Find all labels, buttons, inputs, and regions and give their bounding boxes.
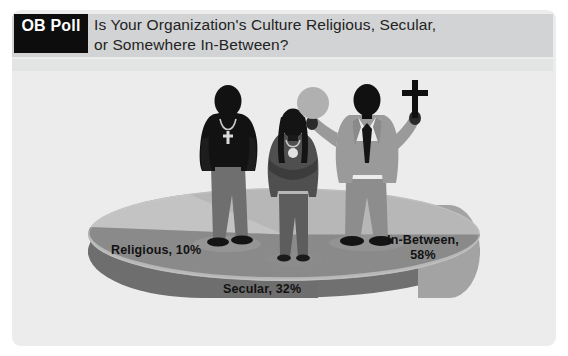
slice-label-inbetween: In-Between, 58% xyxy=(377,233,469,263)
figure-center-pendant xyxy=(288,148,298,158)
figure-left-neck xyxy=(223,113,233,120)
figure-right-shoe-left xyxy=(340,236,364,246)
figure-center-woman-arms-crossed xyxy=(263,109,323,267)
figure-left-man-with-cross-necklace xyxy=(193,85,261,252)
poll-panel: OB Poll Is Your Organization's Culture R… xyxy=(12,10,556,346)
slice-label-religious: Religious, 10% xyxy=(111,243,201,257)
slice-label-inbetween-line-1: In-Between, xyxy=(387,233,459,247)
figures-svg xyxy=(12,71,553,346)
figure-left-trousers xyxy=(211,166,248,241)
ob-poll-badge-label: OB Poll xyxy=(21,17,80,35)
figure-right-trousers xyxy=(345,179,388,240)
figure-left-shoe-right xyxy=(231,236,253,245)
figure-center-neck xyxy=(288,135,298,141)
figure-right-head xyxy=(354,84,381,116)
figure-right-neck xyxy=(362,112,372,119)
page-title-line-1: Is Your Organization's Culture Religious… xyxy=(94,15,524,35)
cross-icon xyxy=(402,80,428,118)
poll-graphic: OB Poll Is Your Organization's Culture R… xyxy=(0,0,568,356)
chart-stage: Religious, 10% Secular, 32% In-Between, … xyxy=(12,71,553,346)
page-title: Is Your Organization's Culture Religious… xyxy=(94,15,524,54)
figure-center-shoe-left xyxy=(277,255,291,262)
figure-left-shoe-left xyxy=(207,238,229,247)
silhouette-figures xyxy=(12,71,553,346)
figure-center-shoe-right xyxy=(296,255,310,262)
globe-icon xyxy=(297,87,329,119)
page-title-line-2: or Somewhere In-Between? xyxy=(94,35,524,55)
figure-center-trousers xyxy=(279,194,308,257)
slice-label-inbetween-line-2: 58% xyxy=(410,248,435,262)
header-band-lower xyxy=(12,59,553,71)
figure-left-head xyxy=(215,85,242,117)
ob-poll-badge: OB Poll xyxy=(14,14,88,53)
figure-center-shadow xyxy=(263,252,323,266)
slice-label-secular: Secular, 32% xyxy=(223,282,301,296)
